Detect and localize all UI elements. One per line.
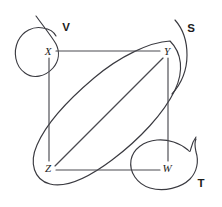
vertex-label-x: X (44, 45, 53, 57)
set-label-v: V (62, 21, 70, 33)
edge-z-y (55, 58, 163, 166)
vertex-label-y: Y (164, 45, 172, 57)
figure-canvas: X Y Z W V S T (0, 0, 222, 207)
graph-diagram: X Y Z W V S T (0, 0, 222, 207)
vertex-label-w: W (162, 162, 172, 174)
set-label-s: S (187, 22, 195, 34)
vertex-label-z: Z (45, 162, 52, 174)
set-region-v (15, 16, 58, 76)
set-label-t: T (197, 177, 204, 189)
